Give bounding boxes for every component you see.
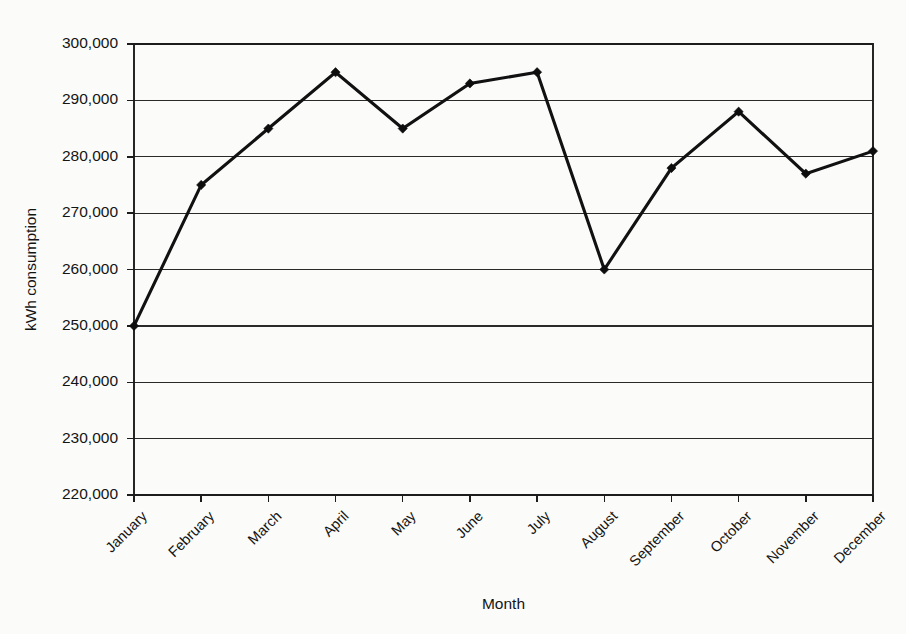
x-axis-tick-label: February xyxy=(165,507,218,560)
y-axis-tick-label: 290,000 xyxy=(62,90,118,107)
y-axis-tick-label: 250,000 xyxy=(62,316,118,333)
y-axis-tick-label: 260,000 xyxy=(62,260,118,277)
series-markers xyxy=(129,68,877,331)
x-axis-tick-label: July xyxy=(524,507,554,537)
x-axis-tick-label: September xyxy=(626,508,688,570)
y-axis-tick-label: 270,000 xyxy=(62,203,118,220)
data-point-marker xyxy=(532,68,541,77)
x-axis-tick-label: November xyxy=(763,508,822,567)
x-axis-tick-labels: JanuaryFebruaryMarchAprilMayJuneJulyAugu… xyxy=(102,507,889,569)
chart-canvas: 220,000230,000240,000250,000260,000270,0… xyxy=(0,0,906,634)
x-axis-tick-label: January xyxy=(102,507,150,555)
x-axis-tick-label: August xyxy=(577,508,620,551)
series-line-kwh-consumption xyxy=(134,72,873,326)
y-axis-tick-label: 300,000 xyxy=(62,34,118,51)
x-axis-tick-label: March xyxy=(245,508,285,548)
x-axis-tick-label: December xyxy=(831,508,890,567)
y-axis-tick-labels: 220,000230,000240,000250,000260,000270,0… xyxy=(62,34,134,502)
y-axis-tick-label: 280,000 xyxy=(62,147,118,164)
y-axis-tick-label: 220,000 xyxy=(62,485,118,502)
x-axis-tick-label: June xyxy=(452,508,486,542)
x-axis-tick-label: October xyxy=(707,508,755,556)
data-point-marker xyxy=(868,147,877,156)
y-axis-tick-label: 240,000 xyxy=(62,372,118,389)
y-axis-title: kWh consumption xyxy=(22,208,39,331)
x-axis-title: Month xyxy=(482,595,525,612)
line-chart: 220,000230,000240,000250,000260,000270,0… xyxy=(0,0,906,634)
x-axis-tick-marks xyxy=(134,495,873,502)
x-axis-tick-label: April xyxy=(320,508,352,540)
gridlines xyxy=(134,100,873,438)
x-axis-tick-label: May xyxy=(388,507,419,538)
y-axis-tick-label: 230,000 xyxy=(62,429,118,446)
